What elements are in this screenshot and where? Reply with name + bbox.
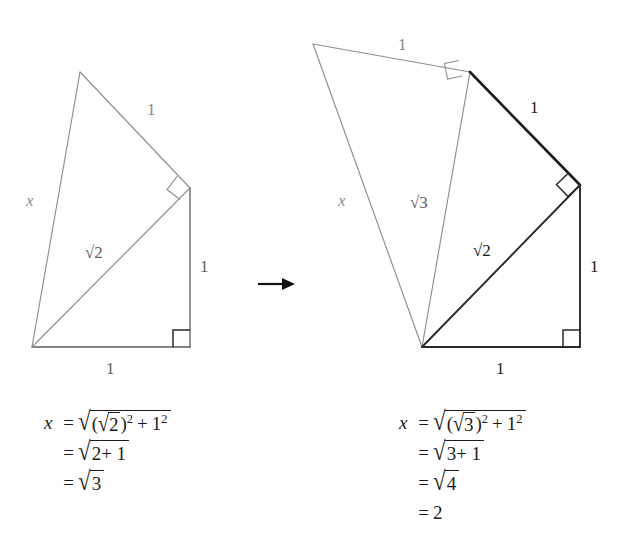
- radical-sign-icon: √: [433, 466, 446, 499]
- right-derivation: x = √ (√3)2+12 = √ 3+ 1 = √ 4 =: [399, 408, 526, 528]
- right-right-angle-bottom: [563, 330, 580, 347]
- equation-lhs: x: [44, 408, 59, 438]
- radical: √ 3+ 1: [433, 438, 484, 467]
- exponent: 2: [482, 412, 488, 426]
- inner-radical: √2: [98, 411, 120, 436]
- radical-sign-icon: √: [78, 436, 91, 469]
- exponent: 2: [516, 412, 522, 426]
- arrow-head: [282, 278, 295, 290]
- right-label-sqrt2: √2: [473, 241, 491, 260]
- radical-sign-icon: √: [78, 406, 91, 439]
- radicand: 2+ 1: [90, 440, 129, 467]
- left-label-one-vertical: 1: [200, 257, 209, 276]
- left-right-angle-bottom: [173, 330, 190, 347]
- left-label-sqrt2: √2: [85, 243, 103, 262]
- radical-sign-icon: √: [98, 409, 109, 438]
- equation-line: = √ 4: [399, 468, 526, 498]
- left-label-x: x: [25, 191, 34, 210]
- equation-equals: =: [414, 498, 433, 528]
- left-right-angle-upper: [166, 176, 180, 201]
- radical-sign-icon: √: [433, 406, 446, 439]
- right-diagram: [313, 44, 580, 347]
- radicand: (√3)2+12: [445, 410, 526, 437]
- left-label-one-base: 1: [106, 359, 115, 378]
- equation-equals: =: [414, 468, 433, 498]
- plus-sign: +: [492, 413, 503, 434]
- left-label-one-outer: 1: [147, 100, 156, 119]
- figure-root: x 1 1 1 √2: [0, 0, 620, 560]
- right-side-one-outer: [313, 44, 470, 72]
- radical: √ 4: [433, 468, 459, 497]
- left-label-sqrt2-group: √2: [85, 243, 103, 262]
- radical: √ 2+ 1: [78, 438, 129, 467]
- inner-radical: √3: [453, 411, 475, 436]
- left-side-one-outer: [80, 72, 190, 188]
- radicand: (√2)2+12: [90, 410, 171, 437]
- plus-sign: +: [137, 413, 148, 434]
- radical-sign-icon: √: [433, 436, 446, 469]
- equation-equals: =: [414, 408, 433, 438]
- equation-equals: =: [59, 438, 78, 468]
- left-diagram: [32, 72, 190, 347]
- left-derivation: x = √ (√2)2+12 = √ 2+ 1 = √ 3: [44, 408, 171, 498]
- equation-equals: =: [59, 468, 78, 498]
- equation-line: = √ 3+ 1: [399, 438, 526, 468]
- radicand: 3: [90, 470, 105, 497]
- right-side-one-middle: [470, 72, 580, 185]
- right-label-one-base: 1: [496, 359, 505, 378]
- transition-arrow: [258, 278, 295, 290]
- radicand: 3+ 1: [445, 440, 484, 467]
- inner-radicand: 2: [108, 412, 121, 436]
- right-label-one-vertical: 1: [590, 257, 599, 276]
- term: 1: [507, 413, 517, 434]
- radical: √ 3: [78, 468, 104, 497]
- right-side-x: [313, 44, 422, 347]
- inner-radicand: 3: [463, 412, 476, 436]
- result-value: 2: [433, 498, 443, 528]
- radical-sign-icon: √: [453, 409, 464, 438]
- right-label-x: x: [337, 191, 346, 210]
- equation-line: = 2: [399, 498, 526, 528]
- equation-line: = √ 3: [44, 468, 171, 498]
- outer-radical: √ (√3)2+12: [433, 408, 526, 437]
- equation-equals: =: [59, 408, 78, 438]
- right-right-angle-mid: [557, 173, 581, 197]
- outer-radical: √ (√2)2+12: [78, 408, 171, 437]
- right-label-one-middle: 1: [530, 98, 539, 117]
- radical-sign-icon: √: [78, 466, 91, 499]
- term: 1: [152, 413, 162, 434]
- equation-line: x = √ (√2)2+12: [44, 408, 171, 438]
- equation-equals: =: [414, 438, 433, 468]
- equation-line: x = √ (√3)2+12: [399, 408, 526, 438]
- exponent: 2: [161, 412, 167, 426]
- right-label-one-outer: 1: [398, 35, 407, 54]
- equation-line: = √ 2+ 1: [44, 438, 171, 468]
- right-label-sqrt3: √3: [410, 193, 428, 212]
- left-diagram-labels: x 1 1 1 √2: [25, 100, 209, 378]
- equation-lhs: x: [399, 408, 414, 438]
- radicand: 4: [445, 470, 460, 497]
- exponent: 2: [127, 412, 133, 426]
